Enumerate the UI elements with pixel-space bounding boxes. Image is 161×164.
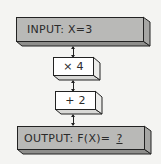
output-box-face: OUTPUT: F(X)= ?: [17, 126, 145, 150]
output-unknown-value: ?: [116, 132, 122, 145]
output-label: OUTPUT: F(X)=: [24, 132, 110, 145]
